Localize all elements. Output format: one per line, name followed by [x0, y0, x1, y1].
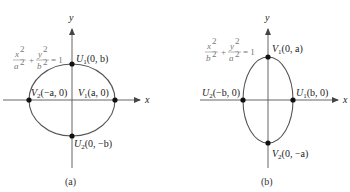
svg-text:2: 2 [235, 49, 240, 59]
label-v2: V2(0, −a) [272, 148, 308, 161]
point-u1 [69, 61, 74, 66]
label-u1: U1(0, b) [76, 53, 108, 66]
y-axis-label: y [264, 12, 270, 23]
panel-b: x y x 2 b 2 + y 2 a 2 = 1 V1(0, a) U2(−b… [200, 12, 348, 188]
panel-a: x y x 2 a 2 + y 2 b 2 = 1 U1(0, b) V2(−a… [3, 12, 150, 188]
y-axis-label: y [68, 12, 74, 23]
svg-text:x: x [14, 49, 19, 59]
svg-text:= 1: = 1 [243, 47, 255, 57]
svg-text:+: + [29, 55, 34, 65]
point-u2 [240, 97, 245, 102]
label-u2: U2(0, −b) [74, 138, 112, 151]
svg-text:b: b [206, 53, 211, 63]
ellipse-diagrams: x y x 2 a 2 + y 2 b 2 = 1 U1(0, b) V2(−a… [0, 0, 350, 192]
caption-b: (b) [261, 176, 273, 188]
svg-text:2: 2 [212, 49, 217, 59]
point-v1 [112, 97, 117, 102]
point-v2 [26, 97, 31, 102]
svg-text:2: 2 [235, 36, 240, 46]
svg-text:2: 2 [212, 36, 217, 46]
svg-text:x: x [206, 41, 211, 51]
label-u2: U2(−b, 0) [202, 87, 240, 100]
svg-text:b: b [37, 61, 42, 71]
svg-text:2: 2 [43, 44, 48, 54]
label-u1: U1(b, 0) [296, 87, 328, 100]
svg-text:a: a [14, 61, 19, 71]
point-v1 [265, 54, 270, 59]
label-v1: V1(a, 0) [78, 87, 109, 100]
svg-text:2: 2 [20, 44, 25, 54]
ellipse-equation: x 2 b 2 + y 2 a 2 = 1 [205, 36, 255, 63]
svg-text:+: + [221, 47, 226, 57]
caption-a: (a) [65, 176, 76, 188]
svg-text:2: 2 [43, 57, 48, 67]
svg-text:a: a [229, 53, 234, 63]
svg-text:= 1: = 1 [51, 55, 63, 65]
x-axis-label: x [342, 94, 348, 105]
x-axis-label: x [144, 94, 150, 105]
point-v2 [265, 140, 270, 145]
svg-text:2: 2 [20, 57, 25, 67]
label-v1: V1(0, a) [272, 43, 303, 56]
svg-text:y: y [229, 41, 234, 51]
point-u1 [290, 97, 295, 102]
label-v2: V2(−a, 0) [31, 87, 67, 100]
svg-text:y: y [37, 49, 42, 59]
